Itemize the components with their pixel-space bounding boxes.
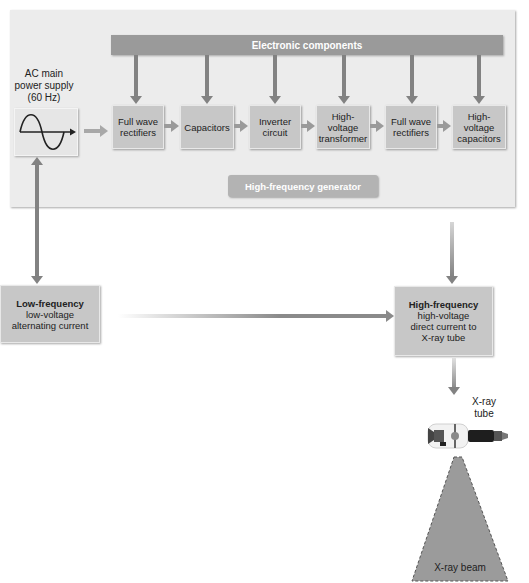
- component-full-wave-rectifiers-1: Full wave rectifiers: [112, 105, 164, 149]
- arrow-down-icon: [473, 96, 485, 104]
- power-supply-line-3: (60 Hz): [8, 92, 80, 104]
- component-line: rectifiers: [120, 127, 156, 138]
- arrow-right-icon: [443, 120, 451, 132]
- arrow-down-icon: [446, 276, 458, 284]
- feed-line-6: [477, 55, 481, 97]
- feed-line-2: [205, 55, 209, 97]
- high-frequency-generator-label: High-frequency generator: [228, 175, 378, 197]
- sine-wave-icon: [15, 109, 77, 155]
- component-line: transformer: [319, 133, 368, 144]
- high-frequency-generator-text: High-frequency generator: [245, 181, 361, 192]
- high-frequency-line: high-voltage: [418, 310, 470, 321]
- generator-output-line: [450, 222, 454, 277]
- xray-tube-label: X-ray tube: [462, 396, 506, 420]
- component-high-voltage-capacitors: High- voltage capacitors: [452, 105, 506, 149]
- xray-tube-label-line: X-ray: [462, 396, 506, 408]
- feed-line-4: [342, 55, 346, 97]
- component-line: High-: [332, 111, 355, 122]
- arrow-down-icon: [269, 96, 281, 104]
- component-line: rectifiers: [393, 127, 429, 138]
- power-supply-label: AC main power supply (60 Hz): [8, 68, 80, 104]
- high-frequency-box: High-frequency high-voltage direct curre…: [394, 286, 493, 356]
- power-supply-line-1: AC main: [8, 68, 80, 80]
- component-line: Full wave: [118, 116, 158, 127]
- low-frequency-line: alternating current: [12, 320, 89, 331]
- arrow-right-icon: [171, 120, 179, 132]
- arrow-down-icon: [201, 96, 213, 104]
- electronic-components-label: Electronic components: [252, 40, 363, 51]
- component-line: capacitors: [457, 133, 500, 144]
- component-line: Full wave: [391, 116, 431, 127]
- low-frequency-title: Low-frequency: [16, 298, 84, 309]
- power-supply-line-2: power supply: [8, 80, 80, 92]
- xray-tube-icon: [420, 418, 520, 458]
- component-capacitors: Capacitors: [180, 105, 234, 149]
- conversion-flow-line: [118, 314, 388, 318]
- component-line: Capacitors: [184, 122, 229, 133]
- arrow-right-icon: [386, 310, 394, 322]
- high-frequency-line: direct current to: [411, 321, 477, 332]
- arrow-down-icon: [31, 276, 43, 284]
- low-frequency-line: low-voltage: [26, 309, 74, 320]
- ac-power-supply-box: [14, 108, 78, 156]
- arrow-down-icon: [448, 387, 460, 395]
- arrow-right-icon: [307, 120, 315, 132]
- high-frequency-line: X-ray tube: [422, 332, 466, 343]
- low-frequency-box: Low-frequency low-voltage alternating cu…: [0, 285, 100, 343]
- component-inverter-circuit: Inverter circuit: [249, 105, 301, 149]
- arrow-right-icon: [100, 125, 108, 137]
- component-line: High-: [468, 111, 491, 122]
- high-frequency-title: High-frequency: [409, 299, 479, 310]
- arrow-right-icon: [376, 120, 384, 132]
- electronic-components-bar: Electronic components: [111, 35, 503, 55]
- component-line: circuit: [263, 127, 288, 138]
- xray-beam-text: X-ray beam: [434, 562, 486, 573]
- arrow-down-icon: [338, 96, 350, 104]
- component-line: voltage: [328, 122, 359, 133]
- arrow-down-icon: [130, 96, 142, 104]
- component-line: Inverter: [259, 116, 291, 127]
- component-high-voltage-transformer: High- voltage transformer: [316, 105, 370, 149]
- feed-line-5: [410, 55, 414, 97]
- component-line: voltage: [464, 122, 495, 133]
- tube-feed-line: [452, 358, 456, 388]
- feed-line-1: [134, 55, 138, 97]
- feed-line-3: [273, 55, 277, 97]
- arrow-down-icon: [406, 96, 418, 104]
- arrow-right-icon: [240, 120, 248, 132]
- supply-link-line: [35, 164, 39, 277]
- component-full-wave-rectifiers-2: Full wave rectifiers: [385, 105, 437, 149]
- xray-beam-label: X-ray beam: [418, 562, 502, 574]
- flow-line-supply: [84, 129, 100, 133]
